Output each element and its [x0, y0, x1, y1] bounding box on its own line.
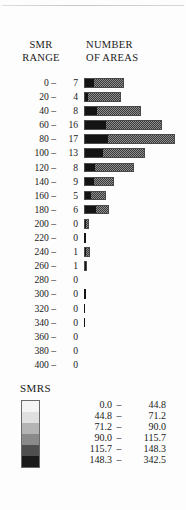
row-count-value: 9: [58, 175, 78, 189]
histogram-row: 220 –0: [0, 231, 186, 245]
row-smr-range-label: 200 –: [0, 217, 56, 231]
header-smr-range-line1: SMR: [8, 38, 74, 51]
histogram-row: 40 –8: [0, 104, 186, 118]
histogram-row: 400 –0: [0, 358, 186, 372]
row-bar: [84, 261, 87, 271]
histogram-rows: 0 –720 –440 –860 –1680 –17100 –13120 –81…: [0, 76, 186, 372]
row-bar-dark-segment: [84, 318, 85, 328]
histogram-row: 380 –0: [0, 344, 186, 358]
row-bar-track: [84, 217, 184, 231]
row-bar-dark-segment: [85, 206, 96, 214]
legend-range-low: 115.7: [72, 443, 112, 454]
row-bar: [84, 219, 89, 229]
row-bar-stipple-segment: [97, 107, 140, 115]
legend-range-dash: –: [112, 399, 126, 410]
row-count-value: 5: [58, 189, 78, 203]
row-bar-track: [84, 104, 184, 118]
header-number-line1: NUMBER: [86, 38, 182, 51]
row-bar: [84, 120, 162, 130]
row-bar-stipple-segment: [103, 149, 144, 157]
row-bar-track: [84, 344, 184, 358]
legend-range-high: 90.0: [126, 421, 166, 432]
legend-title: SMRS: [20, 382, 51, 394]
row-bar-stipple-segment: [86, 248, 89, 256]
row-bar-track: [84, 76, 184, 90]
row-smr-range-label: 360 –: [0, 330, 56, 344]
row-smr-range-label: 80 –: [0, 132, 56, 146]
row-bar-dark-segment: [85, 79, 94, 87]
header-number-of-areas: NUMBER OF AREAS: [86, 38, 182, 64]
histogram-row: 120 –8: [0, 161, 186, 175]
row-count-value: 0: [58, 302, 78, 316]
row-bar-track: [84, 189, 184, 203]
row-bar-stipple-segment: [88, 93, 120, 101]
row-bar-stipple-segment: [91, 192, 105, 200]
row-bar: [84, 205, 109, 215]
row-bar: [84, 106, 141, 116]
row-count-value: 8: [58, 161, 78, 175]
row-smr-range-label: 140 –: [0, 175, 56, 189]
row-bar-dark-segment: [85, 135, 108, 143]
row-count-value: 1: [58, 259, 78, 273]
row-smr-range-label: 180 –: [0, 203, 56, 217]
row-bar-track: [84, 161, 184, 175]
row-bar: [84, 191, 106, 201]
histogram-row: 320 –0: [0, 302, 186, 316]
row-count-value: 4: [58, 90, 78, 104]
row-bar-stipple-segment: [94, 79, 123, 87]
legend-range-high: 148.3: [126, 443, 166, 454]
row-bar-track: [84, 287, 184, 301]
row-count-value: 0: [58, 273, 78, 287]
row-count-value: 7: [58, 76, 78, 90]
row-bar-stipple-segment: [94, 178, 113, 186]
legend-swatch: [22, 412, 39, 423]
row-bar-track: [84, 175, 184, 189]
row-smr-range-label: 160 –: [0, 189, 56, 203]
row-bar-track: [84, 146, 184, 160]
row-count-value: 0: [58, 231, 78, 245]
legend-range-dash: –: [112, 454, 126, 465]
row-smr-range-label: 340 –: [0, 316, 56, 330]
histogram-row: 180 –6: [0, 203, 186, 217]
row-bar-track: [84, 203, 184, 217]
row-count-value: 8: [58, 104, 78, 118]
legend-label-column: 0.0–44.844.8–71.271.2–90.090.0–115.7115.…: [44, 399, 174, 465]
row-smr-range-label: 20 –: [0, 90, 56, 104]
histogram-row: 360 –0: [0, 330, 186, 344]
row-smr-range-label: 320 –: [0, 302, 56, 316]
row-bar-dark-segment: [85, 178, 94, 186]
legend-range-dash: –: [112, 432, 126, 443]
histogram-row: 80 –17: [0, 132, 186, 146]
row-smr-range-label: 60 –: [0, 118, 56, 132]
row-bar-dark-segment: [84, 233, 86, 243]
histogram-row: 240 –1: [0, 245, 186, 259]
row-bar-track: [84, 330, 184, 344]
legend-range-low: 0.0: [72, 399, 112, 410]
row-count-value: 0: [58, 358, 78, 372]
legend-entry: 148.3–342.5: [44, 454, 174, 465]
histogram-row: 280 –0: [0, 273, 186, 287]
legend-swatch: [22, 401, 39, 412]
row-bar: [84, 233, 86, 243]
legend-range-dash: –: [112, 443, 126, 454]
histogram-row: 200 –0: [0, 217, 186, 231]
row-count-value: 16: [58, 118, 78, 132]
row-smr-range-label: 260 –: [0, 259, 56, 273]
row-count-value: 17: [58, 132, 78, 146]
row-bar-dark-segment: [85, 107, 97, 115]
row-bar: [84, 289, 86, 299]
row-count-value: 0: [58, 287, 78, 301]
legend-range-low: 71.2: [72, 421, 112, 432]
row-bar: [84, 177, 114, 187]
row-bar-track: [84, 90, 184, 104]
legend-range-low: 148.3: [72, 454, 112, 465]
row-bar-dark-segment: [85, 164, 95, 172]
row-bar: [84, 318, 85, 328]
legend-range-high: 342.5: [126, 454, 166, 465]
header-smr-range: SMR RANGE: [8, 38, 74, 64]
row-bar: [84, 92, 121, 102]
legend-entry: 44.8–71.2: [44, 410, 174, 421]
histogram-row: 260 –1: [0, 259, 186, 273]
row-bar-track: [84, 132, 184, 146]
row-bar-track: [84, 118, 184, 132]
